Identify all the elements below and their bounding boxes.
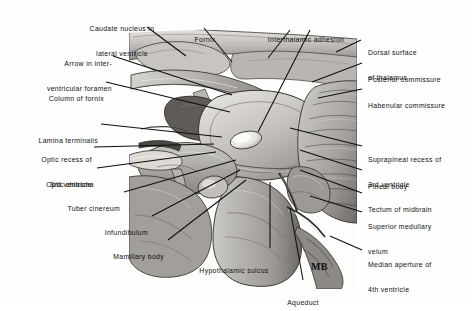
label-median-aperture: Median aperture of 4th ventricle — [368, 244, 468, 311]
label-interthalamic-adhesion: Interthalamic adhesion — [254, 19, 358, 61]
label-hypothalamic-sulcus: Hypothalamic sulcus — [184, 250, 284, 292]
label-habenular-commissure: Habenular commissure — [368, 85, 472, 127]
artist-signature: MB — [311, 261, 328, 272]
label-aqueduct: Aqueduct — [272, 282, 334, 311]
label-fornix: Fornix — [178, 19, 232, 61]
label-mamillary-body: Mamillary body — [88, 236, 164, 278]
label-column-of-fornix: Column of fornix — [14, 78, 104, 120]
